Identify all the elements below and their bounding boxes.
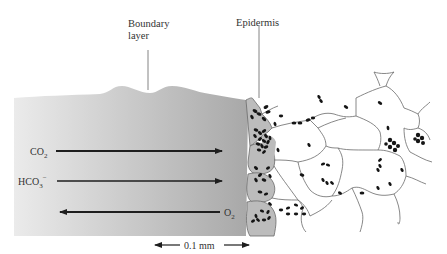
chloroplast-cluster [384, 138, 400, 152]
o2-species: O [224, 207, 231, 218]
boundary-layer-label: Boundary [128, 18, 170, 29]
boundary-layer-label-line2: layer [128, 30, 149, 41]
boundary-layer-region [14, 86, 248, 236]
chloroplasts [250, 94, 425, 223]
hco3-species: HCO [18, 176, 39, 187]
scale-bar-label: 0.1 mm [184, 240, 215, 251]
hco3-superscript: − [43, 174, 47, 182]
hco3-subscript: 3 [39, 182, 43, 190]
boundary-layer-diagram: Boundary layer Epidermis CO2 HCO3− O2 0.… [0, 0, 447, 254]
o2-subscript: 2 [231, 213, 235, 221]
epidermis-layer [246, 98, 276, 236]
epidermis-label: Epidermis [236, 17, 279, 28]
chloroplast-cluster [413, 133, 425, 145]
co2-subscript: 2 [44, 152, 48, 160]
co2-species: CO [30, 146, 44, 157]
